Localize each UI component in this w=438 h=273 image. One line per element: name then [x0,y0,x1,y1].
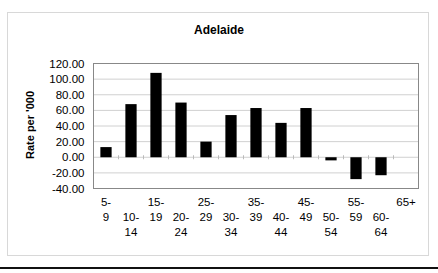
bar [200,142,211,158]
y-tick-label: 100.00 [49,73,84,85]
bar [150,73,161,157]
x-tick-label: 40-44 [273,211,290,238]
y-tick-label: 60.00 [56,104,85,116]
x-tick-label: 25-29 [198,196,215,223]
x-tick-label: 20-24 [173,211,190,238]
y-tick-label: 0.00 [62,151,84,163]
y-tick-label: 80.00 [56,89,85,101]
bar [350,157,361,179]
bar [375,157,386,175]
bar [300,108,311,157]
x-tick-label: 45-49 [298,196,315,223]
x-tick-label: 60-64 [373,211,390,238]
x-axis-ticks: 5-910-1415-1920-2425-2930-3435-3940-4445… [101,196,416,238]
chart-title: Adelaide [194,23,244,37]
x-tick-label: 10-14 [123,211,140,238]
y-tick-label: 40.00 [56,120,85,132]
x-tick-label: 15-19 [148,196,165,223]
y-tick-label: -40.00 [52,183,85,195]
y-axis-ticks: 120.00100.0080.0060.0040.0020.000.00-20.… [49,58,84,195]
y-tick-label: 120.00 [49,58,84,70]
y-tick-label: 20.00 [56,136,85,148]
x-tick-label: 50-54 [323,211,340,238]
x-tick-label: 5-9 [101,196,111,223]
bar [250,108,261,157]
bar [325,157,336,160]
bar [275,123,286,157]
bar [225,115,236,157]
bar [100,147,111,157]
x-tick-label: 65+ [396,196,416,208]
y-axis-label: Rate per '000 [24,91,36,159]
x-tick-label: 55-59 [348,196,365,223]
bar-chart: Adelaide Rate per '000 120.00100.0080.00… [0,0,438,273]
x-tick-label: 35-39 [248,196,265,223]
x-tick-label: 30-34 [223,211,240,238]
y-tick-label: -20.00 [52,167,85,179]
bar [125,104,136,157]
bar [175,103,186,158]
